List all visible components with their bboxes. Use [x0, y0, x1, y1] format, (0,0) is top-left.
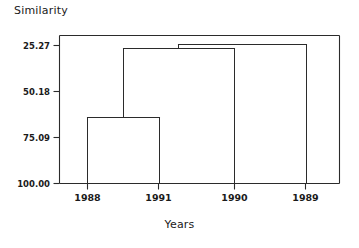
x-tick-label-1988: 1988 — [74, 192, 101, 203]
y-axis-ticks — [54, 46, 60, 184]
plot-area: 25.27 50.18 75.09 100.00 1988 1991 1990 … — [0, 0, 359, 248]
x-tick-label-1990: 1990 — [221, 192, 248, 203]
dendrogram-chart: Similarity 25.27 50.18 75.09 100.00 — [0, 0, 359, 248]
x-axis-title: Years — [0, 218, 359, 231]
x-tick-label-1989: 1989 — [292, 192, 318, 203]
y-tick-label-0: 25.27 — [23, 41, 50, 51]
y-tick-label-2: 75.09 — [23, 133, 50, 143]
plot-frame — [60, 36, 340, 184]
x-axis-ticks — [88, 184, 306, 190]
dendrogram-linkages — [88, 45, 307, 184]
y-tick-label-3: 100.00 — [17, 179, 50, 189]
y-axis-tick-labels: 25.27 50.18 75.09 100.00 — [17, 41, 50, 189]
x-axis-tick-labels: 1988 1991 1990 1989 — [74, 192, 318, 203]
x-tick-label-1991: 1991 — [145, 192, 171, 203]
y-tick-label-1: 50.18 — [23, 87, 50, 97]
